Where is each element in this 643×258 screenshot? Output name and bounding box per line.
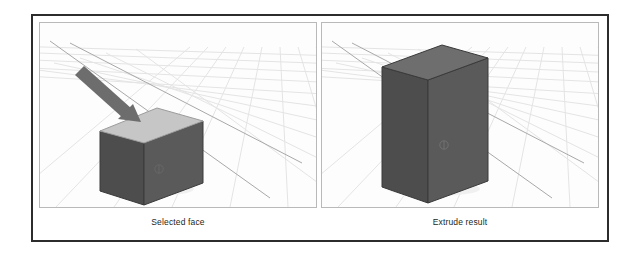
- viewport-selected-face: [39, 22, 317, 208]
- panel-selected-face: Selected face: [39, 22, 317, 236]
- panel-extrude-result: Extrude result: [321, 22, 599, 236]
- caption-extrude-result: Extrude result: [321, 208, 599, 236]
- extruded-box-object: [382, 45, 488, 203]
- viewport-scene-right: [322, 23, 598, 207]
- figure-frame: Selected face: [31, 14, 609, 242]
- figure-root: Selected face: [0, 0, 643, 258]
- caption-text: Extrude result: [433, 217, 488, 227]
- viewport-scene-left: [40, 23, 316, 207]
- caption-text: Selected face: [151, 217, 204, 227]
- box-face-left: [382, 67, 428, 203]
- box-face-front: [428, 58, 488, 203]
- caption-selected-face: Selected face: [39, 208, 317, 236]
- viewport-extrude-result: [321, 22, 599, 208]
